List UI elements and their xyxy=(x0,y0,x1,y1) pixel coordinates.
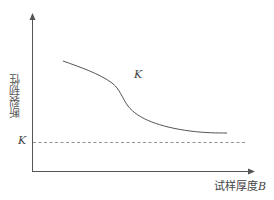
toughness-curve xyxy=(63,61,227,133)
x-axis-label-variable: B xyxy=(258,180,266,193)
k-curve-label: K xyxy=(134,68,142,81)
x-axis-label-text: 试样厚度 xyxy=(214,180,258,193)
y-axis-label: 断裂韧性 xyxy=(8,72,24,120)
chart-canvas xyxy=(0,0,274,200)
x-axis-label: 试样厚度B xyxy=(214,177,266,193)
k-axis-tick-label: K xyxy=(18,134,26,147)
